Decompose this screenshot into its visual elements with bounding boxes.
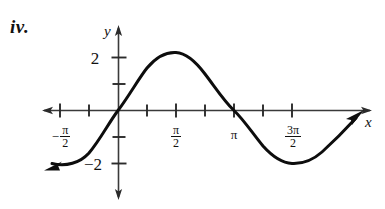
minus-sign: − [52,130,60,143]
fraction-denominator: 2 [60,137,70,149]
fraction-numerator: π [60,124,70,137]
graph-canvas: y x 2 −2 [0,0,385,209]
x-tick-label-3pi-over-2: 3π2 [274,124,312,149]
fraction-denominator: 2 [171,137,181,149]
figure-panel: iv. [0,0,385,209]
x-tick-label-pi: π [222,127,246,143]
fraction-numerator: 3π [285,124,301,137]
curve-right-arrow-icon [346,110,364,125]
y-tick-label-minus-2: −2 [84,155,102,174]
x-tick-label-minus-pi-over-2: −π2 [40,124,82,149]
y-axis-group [112,25,127,200]
fraction-numerator: π [171,124,181,137]
x-tick-label-pi-over-2: π2 [160,124,192,149]
fraction-denominator: 2 [285,137,301,149]
fraction-pi-over-2: π2 [171,124,181,149]
sine-curve-group [44,52,364,170]
y-tick-label-2: 2 [91,49,100,68]
fraction-3pi-over-2: 3π2 [285,124,301,149]
x-axis-group [42,104,372,118]
fraction-pi-over-2: π2 [60,124,70,149]
y-axis-label: y [102,23,111,39]
x-axis-label: x [364,114,372,130]
